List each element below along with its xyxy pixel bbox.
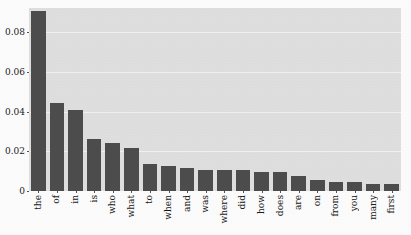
x-tick-label-did: did xyxy=(238,195,247,209)
bar-what xyxy=(124,148,139,191)
y-tick-label: 0 xyxy=(19,187,25,196)
x-tick-mark xyxy=(355,191,356,193)
x-tick-label-who: who xyxy=(108,195,117,214)
x-tick-mark xyxy=(57,191,58,193)
x-tick-label-where: where xyxy=(220,195,229,223)
y-tick-mark xyxy=(27,151,29,152)
x-tick-label-when: when xyxy=(164,195,173,220)
bar-when xyxy=(161,166,176,191)
y-tick-label: 0.04 xyxy=(5,107,25,116)
y-axis: 00.020.040.060.08 xyxy=(0,0,29,199)
x-tick-label-of: of xyxy=(52,195,61,204)
x-tick-mark xyxy=(243,191,244,193)
plot-area xyxy=(29,8,401,191)
x-tick-mark xyxy=(94,191,95,193)
x-tick-label-was: was xyxy=(201,195,210,213)
bar-who xyxy=(105,143,120,191)
y-tick-label: 0.02 xyxy=(5,147,25,156)
bar-of xyxy=(50,103,65,191)
bar-where xyxy=(217,170,232,191)
x-tick-label-are: are xyxy=(294,195,303,210)
x-tick-label-what: what xyxy=(127,195,136,217)
gridline xyxy=(29,112,401,113)
x-tick-mark xyxy=(280,191,281,193)
x-tick-mark xyxy=(336,191,337,193)
x-tick-label-and: and xyxy=(183,195,192,212)
x-tick-label-from: from xyxy=(331,195,340,217)
bar-in xyxy=(68,110,83,191)
x-tick-mark xyxy=(187,191,188,193)
x-tick-mark xyxy=(150,191,151,193)
x-tick-label-to: to xyxy=(145,195,154,204)
gridline xyxy=(29,151,401,152)
bar-and xyxy=(180,168,195,191)
x-tick-mark xyxy=(38,191,39,193)
x-tick-mark xyxy=(392,191,393,193)
bar-how xyxy=(254,172,269,191)
x-tick-label-in: in xyxy=(71,195,80,204)
bar-the xyxy=(31,11,46,191)
x-axis: theofiniswhowhattowhenandwaswheredidhowd… xyxy=(29,191,401,235)
x-tick-mark xyxy=(206,191,207,193)
x-tick-mark xyxy=(169,191,170,193)
x-tick-mark xyxy=(262,191,263,193)
y-tick-label: 0.08 xyxy=(5,28,25,37)
bar-did xyxy=(236,170,251,191)
gridline xyxy=(29,72,401,73)
x-tick-label-is: is xyxy=(90,195,99,203)
x-tick-label-first: first xyxy=(387,195,396,214)
x-tick-label-the: the xyxy=(34,195,43,210)
y-tick-mark xyxy=(27,72,29,73)
x-tick-mark xyxy=(224,191,225,193)
x-tick-mark xyxy=(131,191,132,193)
bar-to xyxy=(143,164,158,191)
bar-was xyxy=(198,170,213,191)
bar-from xyxy=(329,182,344,191)
y-tick-label: 0.06 xyxy=(5,67,25,76)
x-tick-mark xyxy=(113,191,114,193)
x-tick-label-does: does xyxy=(276,195,285,216)
x-tick-label-many: many xyxy=(369,195,378,220)
bar-first xyxy=(384,184,399,191)
x-tick-mark xyxy=(373,191,374,193)
bar-are xyxy=(291,176,306,191)
gridline xyxy=(29,32,401,33)
x-tick-label-how: how xyxy=(257,195,266,214)
bar-many xyxy=(366,184,381,191)
x-tick-mark xyxy=(299,191,300,193)
x-tick-mark xyxy=(76,191,77,193)
bar-does xyxy=(273,172,288,191)
x-tick-label-on: on xyxy=(313,195,322,206)
bar-chart-figure: 00.020.040.060.08 theofiniswhowhattowhen… xyxy=(0,0,411,235)
y-tick-mark xyxy=(27,32,29,33)
bar-on xyxy=(310,180,325,191)
x-tick-mark xyxy=(317,191,318,193)
bar-you xyxy=(347,182,362,191)
x-tick-label-you: you xyxy=(350,195,359,211)
y-tick-mark xyxy=(27,112,29,113)
bar-is xyxy=(87,139,102,191)
